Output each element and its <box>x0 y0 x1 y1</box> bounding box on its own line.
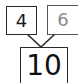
part-box-right: 6 <box>47 5 78 35</box>
part-box-left: 4 <box>6 6 37 35</box>
whole-box: 10 <box>20 47 68 83</box>
part-value-right: 6 <box>57 11 68 29</box>
part-value-left: 4 <box>16 12 27 30</box>
whole-value: 10 <box>26 52 62 80</box>
connector-left <box>27 34 41 47</box>
connector-right <box>41 34 55 47</box>
